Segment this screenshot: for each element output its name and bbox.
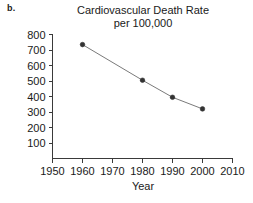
x-axis-ticks: [53, 159, 233, 163]
x-tick-label: 1950: [40, 165, 64, 177]
x-tick-label: 2010: [220, 165, 244, 177]
x-axis-title: Year: [52, 180, 234, 192]
line-chart-plot: 100200300400500600700800 195019601970198…: [0, 0, 253, 203]
y-axis: 100200300400500600700800: [27, 29, 52, 159]
y-tick-label: 200: [27, 122, 45, 134]
x-axis-tick-labels: 1950196019701980199020002010: [40, 165, 244, 177]
x-tick-label: 1990: [160, 165, 184, 177]
y-axis-tick-labels: 100200300400500600700800: [27, 29, 45, 150]
x-tick-label: 2000: [190, 165, 214, 177]
y-tick-label: 800: [27, 29, 45, 41]
x-tick-label: 1970: [100, 165, 124, 177]
x-axis: 1950196019701980199020002010: [40, 159, 244, 177]
data-point: [200, 107, 205, 112]
y-tick-label: 100: [27, 137, 45, 149]
y-axis-ticks: [49, 35, 53, 144]
data-point: [170, 95, 175, 100]
y-tick-label: 700: [27, 44, 45, 56]
data-point: [80, 42, 85, 47]
y-tick-label: 600: [27, 60, 45, 72]
data-point: [140, 78, 145, 83]
x-tick-label: 1960: [70, 165, 94, 177]
data-series: [80, 42, 205, 111]
y-tick-label: 400: [27, 91, 45, 103]
series-markers: [80, 42, 205, 111]
figure-panel: b. Cardiovascular Death Rate per 100,000…: [0, 0, 253, 203]
x-tick-label: 1980: [130, 165, 154, 177]
series-line: [83, 45, 203, 109]
y-tick-label: 300: [27, 106, 45, 118]
y-tick-label: 500: [27, 75, 45, 87]
